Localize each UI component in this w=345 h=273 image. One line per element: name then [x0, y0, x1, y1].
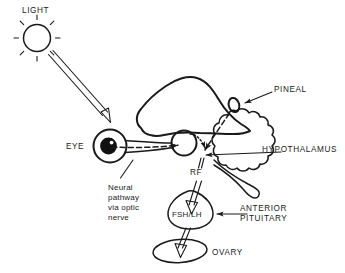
neuroendocrine-diagram: LIGHT EYE Neural pathway via optic nerve [0, 0, 345, 273]
pineal-leader [245, 92, 272, 103]
diagram-canvas: LIGHT EYE Neural pathway via optic nerve [0, 0, 345, 273]
ovary-label: OVARY [212, 248, 243, 257]
light-label: LIGHT [22, 6, 49, 15]
fsh-lh-label: FSH/LH [172, 210, 202, 219]
anterior-pituitary-label-line1: ANTERIOR [240, 204, 287, 213]
hypothalamus-label: HYPOTHALAMUS [262, 145, 337, 154]
light-ray-arrow [49, 51, 111, 123]
neural-pathway-label-line4: nerve [108, 213, 129, 222]
pituitary-to-ovary-arrow [175, 228, 191, 258]
anterior-pituitary-label-line2: PITUITARY [240, 214, 287, 223]
pituitary-stalk [199, 158, 205, 168]
sun-icon [14, 15, 60, 61]
chiasm-to-hypothalamus-dotted [190, 134, 205, 148]
cerebrum [137, 77, 250, 136]
optic-nerve-pathway [112, 145, 178, 147]
neural-pathway-label-line3: via optic [108, 203, 139, 212]
neural-pathway-leader [121, 160, 134, 178]
neural-pathway-label-line2: pathway [108, 193, 139, 202]
brainstem [214, 160, 259, 198]
pineal-to-hypothalamus-pathway [205, 114, 229, 150]
cerebellum [212, 109, 275, 171]
pupil [100, 138, 117, 155]
sun-rays [14, 15, 60, 61]
pupil-highlight [110, 141, 114, 145]
pineal-label: PINEAL [274, 85, 307, 94]
optic-chiasm [172, 131, 197, 156]
rf-label: RF [190, 168, 202, 177]
eye-label: EYE [66, 142, 84, 151]
neural-pathway-label-line1: Neural [108, 183, 133, 192]
